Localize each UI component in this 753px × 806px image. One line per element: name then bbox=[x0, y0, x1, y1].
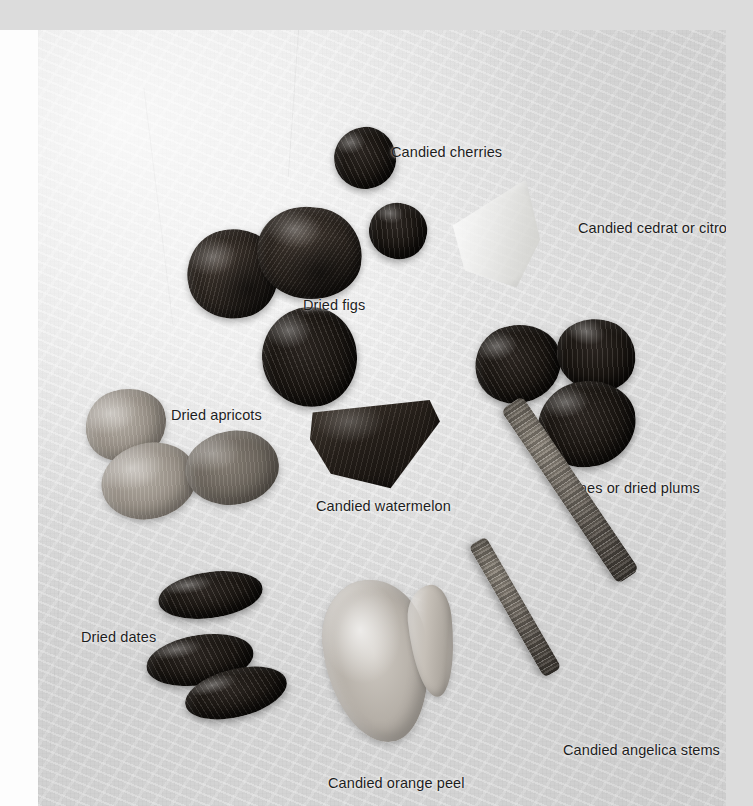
specimen-dried-date bbox=[158, 572, 263, 618]
cloth-crease bbox=[50, 447, 67, 747]
label-dried-dates: Dried dates bbox=[81, 629, 156, 645]
specimen-dried-fig bbox=[262, 307, 357, 407]
specimen-angelica-stem bbox=[468, 536, 561, 678]
label-dried-apricots: Dried apricots bbox=[171, 407, 262, 423]
specimen-dried-date bbox=[184, 669, 288, 717]
specimen-candied-cedrat bbox=[457, 195, 552, 290]
specimen-dried-apricot bbox=[185, 431, 279, 505]
label-candied-orange-peel: Candied orange peel bbox=[328, 775, 465, 791]
photo-page: Candied cherries Candied cedrat or citro… bbox=[0, 30, 726, 806]
specimen-candied-watermelon bbox=[310, 400, 440, 490]
specimen-candied-cherry bbox=[334, 127, 396, 189]
label-candied-cherries: Candied cherries bbox=[391, 144, 502, 160]
specimen-dried-apricot bbox=[101, 443, 197, 519]
specimen-candied-cherry bbox=[369, 203, 427, 259]
cloth-crease bbox=[143, 88, 173, 326]
label-candied-cedrat: Candied cedrat or citron bbox=[578, 220, 726, 236]
specimen-dried-fig bbox=[257, 207, 362, 299]
label-dried-figs: Dried figs bbox=[303, 297, 365, 313]
photograph: Candied cherries Candied cedrat or citro… bbox=[38, 30, 726, 806]
label-candied-watermelon: Candied watermelon bbox=[316, 498, 451, 514]
cloth-crease bbox=[288, 30, 299, 177]
specimen-candied-orange-peel-sliver bbox=[410, 585, 454, 697]
cloth-crease bbox=[591, 547, 607, 716]
label-candied-angelica: Candied angelica stems bbox=[563, 742, 720, 758]
